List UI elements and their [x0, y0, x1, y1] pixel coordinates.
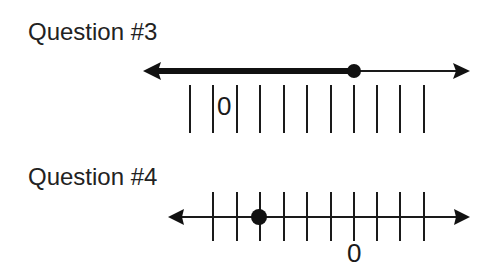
question-4-number-line [168, 192, 470, 241]
q3-zero-label: 0 [217, 93, 231, 119]
q3-closed-point [347, 64, 361, 78]
number-lines-diagram [0, 0, 495, 266]
question-3-number-line [143, 62, 470, 133]
q4-closed-point [251, 209, 267, 225]
q4-right-arrow-icon [454, 209, 470, 225]
q4-zero-label: 0 [347, 240, 361, 266]
q4-left-arrow-icon [168, 209, 184, 225]
